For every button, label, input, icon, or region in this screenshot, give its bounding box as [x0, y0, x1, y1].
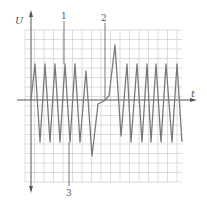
x-axis-label: t: [191, 88, 196, 99]
y-axis: [29, 10, 33, 193]
marker-label-1: 1: [61, 11, 67, 21]
marker-label-3: 3: [66, 188, 72, 198]
marker-label-2: 2: [101, 13, 107, 23]
oscillogram: U t 1 2 3: [0, 0, 207, 209]
y-axis-arrow-down-icon: [29, 186, 33, 193]
y-axis-arrow-up-icon: [29, 10, 33, 17]
y-axis-label: U: [15, 15, 24, 26]
